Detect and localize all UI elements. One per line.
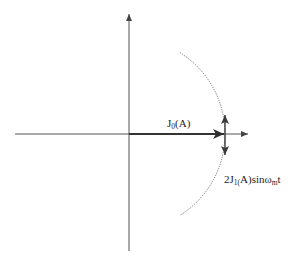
label-sin-omega: A)sinω [240,173,272,185]
label-2j: 2J [224,173,234,185]
label-t: t [278,173,281,185]
phasor-diagram [0,0,296,262]
carrier-phasor-label: J0(A) [167,118,190,129]
sideband-phasor-label: 2J1(A)sinωmt [224,174,281,185]
label-argument: (A) [175,117,190,129]
